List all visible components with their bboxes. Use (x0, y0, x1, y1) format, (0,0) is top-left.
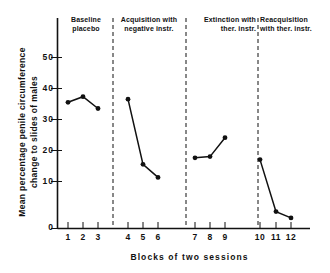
data-point-block-5 (141, 162, 146, 167)
series-extinction-therapeutic (193, 135, 228, 160)
series-baseline-placebo (66, 94, 101, 111)
phase-separators (113, 18, 258, 228)
series-line-reacquisition (260, 160, 291, 218)
data-point-block-4 (126, 97, 131, 102)
plot-canvas (0, 0, 330, 273)
data-point-block-6 (156, 175, 161, 180)
data-point-block-10 (258, 157, 263, 162)
data-point-block-7 (193, 155, 198, 160)
data-point-block-12 (289, 216, 294, 221)
data-point-block-1 (66, 100, 71, 105)
series-acquisition-negative (126, 97, 161, 180)
data-point-block-2 (81, 94, 86, 99)
data-point-block-8 (208, 154, 213, 159)
data-point-block-11 (274, 209, 279, 214)
chart-figure: Mean percentage penile circumference cha… (0, 0, 330, 273)
data-point-block-9 (223, 135, 228, 140)
series-reacquisition-therapeutic (258, 157, 294, 220)
data-point-block-3 (96, 106, 101, 111)
y-axis-ticks (51, 58, 62, 229)
